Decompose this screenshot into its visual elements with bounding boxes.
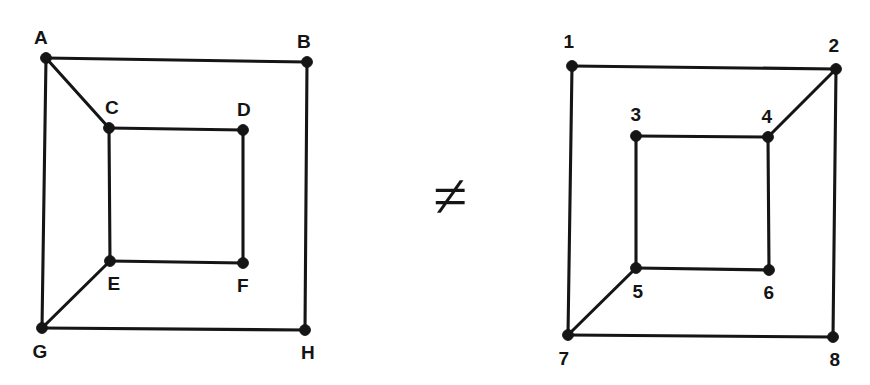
graph-edge-1-7	[568, 66, 572, 335]
vertex-label-H: H	[301, 343, 315, 362]
graph-vertex-6	[764, 265, 775, 276]
graph-vertex-B	[302, 57, 313, 68]
graph-edge-2-8	[833, 69, 836, 337]
graph-edge-4-6	[768, 137, 769, 270]
graph-vertex-A	[41, 53, 52, 64]
graph-edge-C-D	[109, 128, 243, 130]
graph-edge-5-6	[636, 268, 769, 270]
vertex-label-A: A	[34, 28, 48, 47]
vertex-label-E: E	[108, 274, 121, 293]
graph-vertex-F	[238, 258, 249, 269]
vertex-label-3: 3	[631, 105, 642, 124]
graph-vertex-1	[567, 61, 578, 72]
not-equal-sign-icon: ≠	[433, 165, 467, 227]
graph-edge-7-8	[568, 335, 833, 337]
vertex-label-2: 2	[829, 36, 840, 55]
vertex-label-6: 6	[764, 283, 775, 302]
graph-edge-E-G	[42, 261, 110, 328]
graph-edge-E-F	[110, 261, 243, 263]
graph-comparison-figure: ABCDEFGH12345678 ≠	[0, 0, 870, 385]
edge-group	[568, 66, 836, 337]
edge-group	[42, 58, 307, 330]
graph-edge-3-4	[636, 136, 768, 137]
graph-vertex-2	[831, 64, 842, 75]
graph-edge-C-E	[109, 128, 110, 261]
graph-edge-B-H	[305, 62, 307, 330]
graph-left-lettered	[37, 53, 313, 336]
vertex-label-G: G	[32, 342, 47, 361]
graph-vertex-D	[238, 125, 249, 136]
graph-edge-2-4	[768, 69, 836, 137]
vertex-label-B: B	[297, 32, 311, 51]
graph-edge-5-7	[568, 268, 636, 335]
graph-vertex-3	[631, 131, 642, 142]
vertex-label-5: 5	[633, 282, 644, 301]
vertex-label-D: D	[237, 100, 251, 119]
graph-vertex-8	[828, 332, 839, 343]
vertex-label-1: 1	[564, 32, 575, 51]
graph-edge-G-H	[42, 328, 305, 330]
graph-vertex-G	[37, 323, 48, 334]
vertex-label-8: 8	[830, 350, 841, 369]
vertex-label-7: 7	[559, 349, 570, 368]
graph-edge-A-C	[46, 58, 109, 128]
graph-vertex-H	[300, 325, 311, 336]
graph-vertex-7	[563, 330, 574, 341]
graph-edge-A-B	[46, 58, 307, 62]
graph-vertex-4	[763, 132, 774, 143]
graph-right-numbered	[563, 61, 842, 343]
graph-vertex-C	[104, 123, 115, 134]
graph-vertex-5	[631, 263, 642, 274]
graph-edge-A-G	[42, 58, 46, 328]
vertex-label-4: 4	[762, 107, 773, 126]
vertex-label-F: F	[237, 276, 249, 295]
graph-vertex-E	[105, 256, 116, 267]
vertex-label-C: C	[105, 98, 119, 117]
graph-edge-1-2	[572, 66, 836, 69]
